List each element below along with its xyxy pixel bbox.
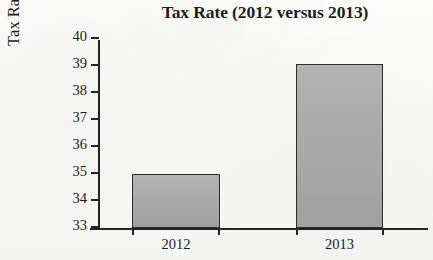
y-tick-37: 37	[91, 118, 99, 120]
y-tick-label-40: 40	[73, 28, 88, 44]
x-tick-left-2013	[296, 228, 298, 235]
y-tick-34: 34	[91, 199, 99, 201]
y-tick-label-34: 34	[73, 190, 88, 206]
bar-2012	[132, 174, 220, 228]
chart-figure: Tax Rate (2012 versus 2013) Tax Rate (%)…	[0, 0, 433, 260]
y-tick-40: 40	[91, 37, 99, 39]
y-axis-title: Tax Rate (%)	[4, 0, 30, 82]
y-tick-39: 39	[91, 64, 99, 66]
x-category-label-2013: 2013	[296, 236, 383, 253]
x-tick-right-2012	[218, 228, 220, 235]
y-tick-label-33: 33	[73, 217, 88, 233]
y-tick-38: 38	[91, 91, 99, 93]
y-tick-label-39: 39	[73, 55, 88, 71]
x-category-label-2012: 2012	[132, 236, 220, 253]
y-tick-label-37: 37	[73, 109, 88, 125]
chart-title: Tax Rate (2012 versus 2013)	[100, 2, 430, 23]
y-tick-label-36: 36	[73, 136, 88, 152]
plot-area: 33 34 35 36 37 38 39 40 2012 201	[98, 40, 428, 228]
y-tick-36: 36	[91, 145, 99, 147]
x-tick-left-2012	[132, 228, 134, 235]
bar-2013	[296, 64, 383, 228]
y-tick-35: 35	[91, 172, 99, 174]
x-axis-line	[90, 228, 428, 230]
y-tick-label-35: 35	[73, 163, 88, 179]
x-tick-right-2013	[382, 228, 384, 235]
y-tick-33: 33	[91, 226, 99, 228]
y-tick-label-38: 38	[73, 82, 88, 98]
